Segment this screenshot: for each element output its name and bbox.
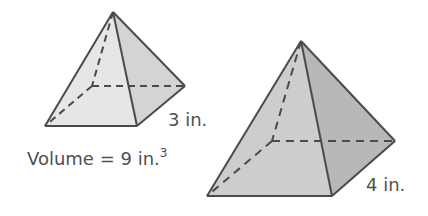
volume-exponent: 3 [160, 146, 168, 160]
large-pyramid [207, 41, 395, 196]
small-pyramid-volume-label: Volume = 9 in.3 [27, 146, 167, 169]
small-pyramid-side-label: 3 in. [168, 109, 207, 130]
volume-text: Volume = 9 in. [27, 148, 160, 169]
small-pyramid [45, 12, 185, 126]
large-pyramid-side-label: 4 in. [366, 174, 405, 195]
pyramids-diagram: 3 in. Volume = 9 in.3 4 in. [0, 0, 428, 216]
